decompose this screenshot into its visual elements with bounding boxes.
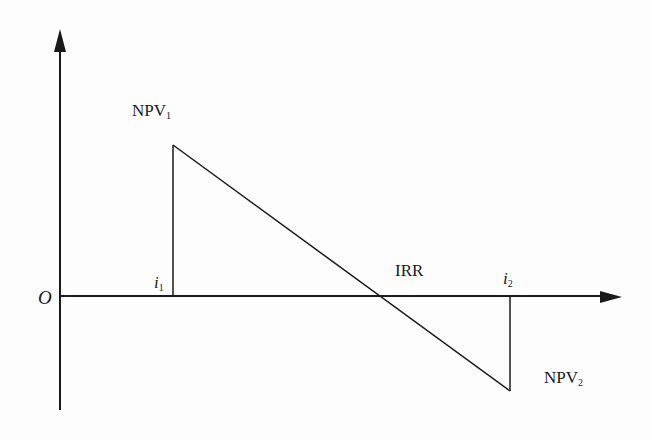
irr-diagram: O NPV1 i1 IRR i2 NPV2 (0, 0, 652, 440)
npv1-label: NPV1 (132, 102, 171, 121)
npv2-label: NPV2 (544, 369, 583, 388)
x-axis-arrow-icon (600, 291, 622, 303)
origin-label: O (38, 288, 52, 307)
npv-interpolation-line (173, 145, 510, 391)
i1-label: i1 (154, 274, 164, 293)
i2-label: i2 (503, 270, 513, 289)
irr-label: IRR (395, 262, 423, 279)
y-axis-arrow-icon (54, 29, 66, 52)
